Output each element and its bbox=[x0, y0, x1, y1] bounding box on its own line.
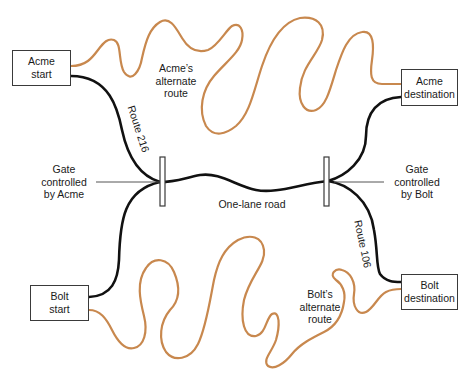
bolt-alternate-line2: alternate bbox=[290, 301, 350, 314]
one-lane-road-label: One-lane road bbox=[212, 198, 292, 211]
gate-bolt-line2: controlled bbox=[386, 176, 448, 189]
bolt-start-line2: start bbox=[49, 303, 69, 316]
acme-alternate-line2: alternate bbox=[146, 75, 206, 88]
acme-destination-line2: destination bbox=[404, 88, 455, 101]
acme-start-line1: Acme bbox=[28, 55, 55, 68]
bolt-destination-line1: Bolt bbox=[420, 279, 438, 292]
acme-destination-line1: Acme bbox=[416, 75, 443, 88]
bolt-destination-box: Bolt destination bbox=[401, 274, 458, 310]
acme-alternate-line1: Acme’s bbox=[146, 62, 206, 75]
bolt-destination-line2: destination bbox=[404, 292, 455, 305]
acme-destination-box: Acme destination bbox=[401, 69, 458, 106]
acme-alternate-route bbox=[71, 18, 401, 134]
gate-acme-line2: controlled bbox=[33, 176, 95, 189]
acme-start-line2: start bbox=[31, 68, 51, 81]
bolt-start-line1: Bolt bbox=[50, 290, 68, 303]
gate-acme bbox=[160, 157, 165, 206]
gate-bolt-line1: Gate bbox=[386, 163, 448, 176]
bolt-alternate-label: Bolt’s alternate route bbox=[290, 288, 350, 326]
one-lane-road bbox=[160, 175, 328, 191]
acme-start-box: Acme start bbox=[12, 50, 71, 86]
gate-bolt-line3: by Bolt bbox=[386, 188, 448, 201]
gate-acme-label: Gate controlled by Acme bbox=[33, 163, 95, 201]
gate-acme-line1: Gate bbox=[33, 163, 95, 176]
acme-alternate-label: Acme’s alternate route bbox=[146, 62, 206, 100]
bolt-alternate-route bbox=[89, 237, 401, 367]
bolt-alternate-line1: Bolt’s bbox=[290, 288, 350, 301]
acme-alternate-line3: route bbox=[146, 87, 206, 100]
gate-bolt-label: Gate controlled by Bolt bbox=[386, 163, 448, 201]
bolt-alternate-line3: route bbox=[290, 313, 350, 326]
bolt-start-box: Bolt start bbox=[30, 285, 89, 321]
bolt-start-route bbox=[89, 182, 160, 297]
gate-acme-line3: by Acme bbox=[33, 188, 95, 201]
gate-bolt bbox=[324, 157, 329, 206]
one-lane-road-text: One-lane road bbox=[212, 198, 292, 211]
